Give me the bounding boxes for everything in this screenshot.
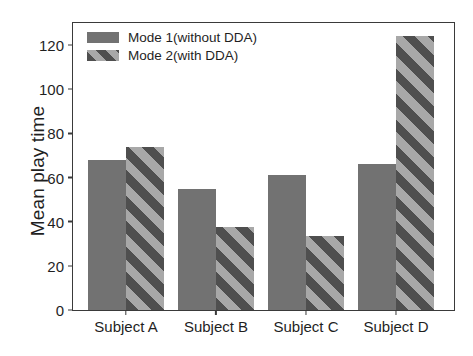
legend-item-mode-1: Mode 1(without DDA) <box>87 30 257 45</box>
y-tick-label: 40 <box>47 213 68 230</box>
bar-subject-c-mode-1 <box>268 175 306 310</box>
y-tick-100: 100 <box>39 81 73 98</box>
x-tick-subject-a: Subject A <box>94 310 157 335</box>
x-tick-label: Subject D <box>363 318 428 335</box>
bar-subject-b-mode-1 <box>178 189 216 310</box>
y-tick-0: 0 <box>56 302 73 319</box>
x-tick-mark <box>305 310 307 315</box>
bar-subject-c-mode-2 <box>306 236 344 310</box>
y-tick-120: 120 <box>39 37 73 54</box>
y-tick-mark <box>68 177 73 179</box>
x-tick-subject-d: Subject D <box>363 310 428 335</box>
bar-chart-figure: Mean play time 0 20 40 60 80 100 120 <box>0 0 473 356</box>
legend-item-mode-2: Mode 2(with DDA) <box>87 48 257 63</box>
x-tick-label: Subject B <box>184 318 248 335</box>
legend-label-mode-1: Mode 1(without DDA) <box>128 30 257 45</box>
x-tick-mark <box>395 310 397 315</box>
y-tick-mark <box>68 133 73 135</box>
x-tick-mark <box>125 310 127 315</box>
bar-subject-b-mode-2 <box>216 227 254 310</box>
y-tick-mark <box>68 88 73 90</box>
y-tick-mark <box>68 265 73 267</box>
bar-subject-d-mode-2 <box>396 36 434 310</box>
y-tick-label: 100 <box>39 81 68 98</box>
bar-subject-d-mode-1 <box>358 164 396 310</box>
legend-label-mode-2: Mode 2(with DDA) <box>128 48 238 63</box>
y-tick-mark <box>68 44 73 46</box>
y-tick-label: 60 <box>47 169 68 186</box>
y-tick-mark <box>68 309 73 311</box>
plot-area: 0 20 40 60 80 100 120 <box>72 22 455 311</box>
bar-subject-a-mode-1 <box>88 160 126 310</box>
x-tick-label: Subject C <box>273 318 338 335</box>
y-tick-20: 20 <box>47 257 73 274</box>
y-tick-label: 80 <box>47 125 68 142</box>
y-tick-label: 20 <box>47 257 68 274</box>
legend-swatch-mode-2 <box>87 50 119 61</box>
y-tick-80: 80 <box>47 125 73 142</box>
y-tick-label: 0 <box>56 302 68 319</box>
x-tick-label: Subject A <box>94 318 157 335</box>
legend-swatch-mode-1 <box>87 32 119 43</box>
x-tick-mark <box>215 310 217 315</box>
y-tick-60: 60 <box>47 169 73 186</box>
x-tick-subject-c: Subject C <box>273 310 338 335</box>
y-tick-label: 120 <box>39 37 68 54</box>
x-tick-subject-b: Subject B <box>184 310 248 335</box>
y-tick-40: 40 <box>47 213 73 230</box>
bar-subject-a-mode-2 <box>126 147 164 310</box>
chart-legend: Mode 1(without DDA) Mode 2(with DDA) <box>83 28 261 65</box>
y-tick-mark <box>68 221 73 223</box>
